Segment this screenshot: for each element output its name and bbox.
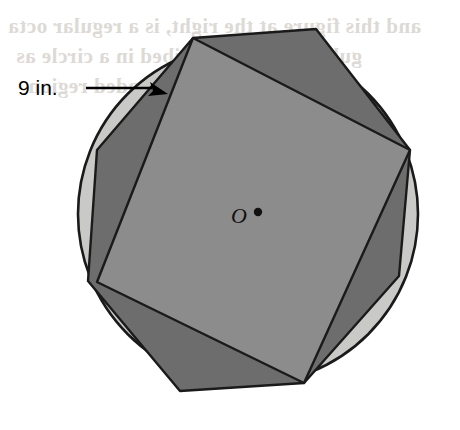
figure-canvas — [0, 0, 460, 430]
center-label-O: O — [231, 203, 247, 229]
center-point-dot — [254, 208, 262, 216]
dimension-label: 9 in. — [18, 76, 58, 100]
geometry-figure: and this figure at the right, is a regul… — [0, 0, 460, 430]
